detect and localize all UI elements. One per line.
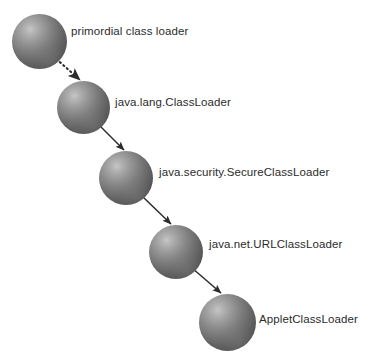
label-java-net-urlclassloader: java.net.URLClassLoader <box>209 239 342 251</box>
sphere-appletclassloader <box>199 294 256 351</box>
sphere-java-net-urlclassloader <box>149 225 203 279</box>
sphere-java-security-secureclassloader <box>99 151 153 205</box>
class-loader-hierarchy-diagram: primordial class loader java.lang.ClassL… <box>0 0 368 360</box>
label-appletclassloader: AppletClassLoader <box>259 314 358 326</box>
label-java-lang-classloader: java.lang.ClassLoader <box>115 97 231 109</box>
connector-classloader-to-secureclassloader <box>99 125 124 150</box>
sphere-primordial <box>12 14 67 69</box>
connector-urlclassloader-to-appletclassloader <box>192 268 221 293</box>
label-java-security-secureclassloader: java.security.SecureClassLoader <box>159 167 329 179</box>
label-primordial: primordial class loader <box>71 26 188 38</box>
sphere-java-lang-classloader <box>57 81 110 134</box>
connector-secureclassloader-to-urlclassloader <box>143 197 171 224</box>
